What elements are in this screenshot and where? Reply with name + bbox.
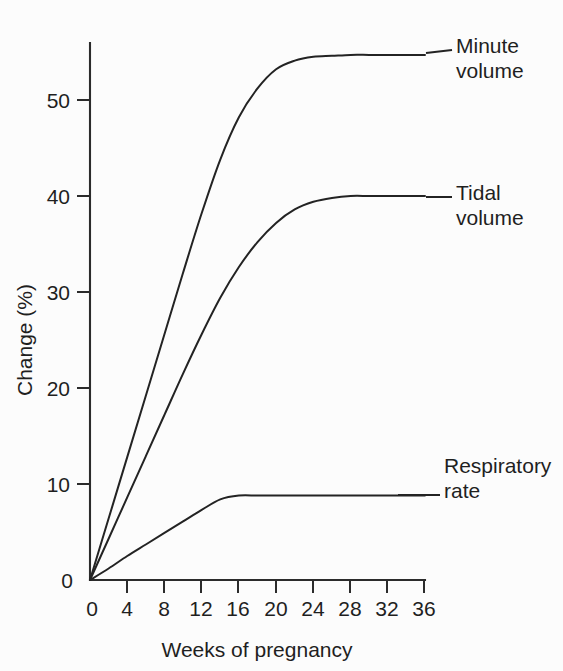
x-tick-label-24: 24 [301, 597, 325, 620]
y-tick-label-50: 50 [47, 89, 70, 112]
x-tick-label-20: 20 [264, 597, 287, 620]
x-tick-label-16: 16 [226, 597, 249, 620]
leader-line-minute-volume [426, 50, 452, 53]
y-ticks-group: 50 40 30 20 10 0 [47, 89, 90, 592]
line-chart-plot: 50 40 30 20 10 0 0 4 8 12 16 20 24 28 [0, 0, 563, 671]
series-curve-minute-volume [90, 55, 425, 580]
y-tick-label-30: 30 [47, 281, 70, 304]
y-tick-label-10: 10 [47, 473, 70, 496]
series-label-tidal-volume: Tidal volume [456, 180, 524, 230]
series-curves-group [90, 55, 425, 580]
chart-figure: 50 40 30 20 10 0 0 4 8 12 16 20 24 28 [0, 0, 563, 671]
x-tick-label-0: 0 [86, 597, 98, 620]
x-tick-label-4: 4 [121, 597, 133, 620]
y-tick-label-40: 40 [47, 185, 70, 208]
x-axis-title: Weeks of pregnancy [161, 638, 353, 661]
series-label-respiratory-rate: Respiratory rate [444, 453, 551, 503]
x-ticks-group: 0 4 8 12 16 20 24 28 32 36 [86, 580, 436, 620]
axes-group [90, 43, 425, 580]
x-tick-label-12: 12 [189, 597, 212, 620]
x-tick-label-36: 36 [412, 597, 435, 620]
series-curve-tidal-volume [90, 196, 425, 580]
series-curve-respiratory-rate [90, 495, 425, 580]
y-axis-title: Change (%) [13, 284, 36, 396]
y-tick-label-0: 0 [61, 569, 73, 592]
series-label-minute-volume: Minute volume [456, 33, 524, 83]
x-tick-label-28: 28 [338, 597, 361, 620]
x-tick-label-32: 32 [375, 597, 398, 620]
x-tick-label-8: 8 [158, 597, 170, 620]
leader-lines-group [398, 50, 452, 495]
y-tick-label-20: 20 [47, 377, 70, 400]
